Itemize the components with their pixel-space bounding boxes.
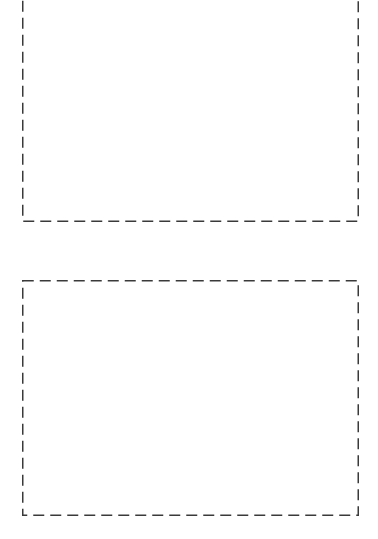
empty-placeholder-region-bottom	[22, 280, 359, 516]
empty-placeholder-region-top	[22, 0, 359, 222]
dashed-border-top-box	[22, 0, 359, 222]
dashed-border-bottom-box	[22, 280, 359, 516]
page	[0, 0, 378, 539]
